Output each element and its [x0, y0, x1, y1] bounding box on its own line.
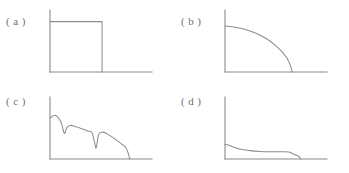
panel-c-curve — [50, 115, 130, 159]
panel-c-plot — [0, 87, 174, 173]
panel-d-plot — [175, 87, 349, 173]
panel-d: ( d ) — [175, 87, 349, 173]
panel-b-curve — [225, 26, 292, 72]
panel-d-curve — [225, 144, 301, 159]
panel-a-curve — [50, 22, 102, 72]
panel-b-plot — [175, 0, 349, 86]
panel-a: ( a ) — [0, 0, 174, 86]
figure-canvas: ( a ) ( b ) ( c ) ( d ) — [0, 0, 349, 173]
panel-c: ( c ) — [0, 87, 174, 173]
panel-a-plot — [0, 0, 174, 86]
panel-b: ( b ) — [175, 0, 349, 86]
